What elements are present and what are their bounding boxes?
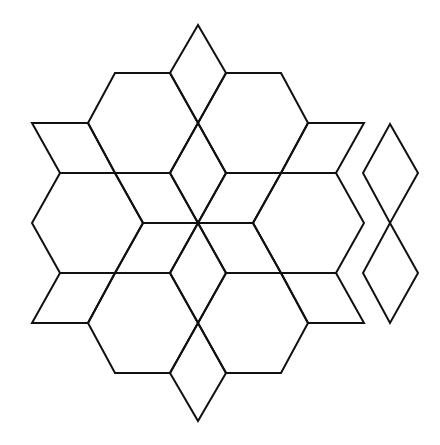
hexagon-top-left [88, 73, 198, 173]
rhombus-left-top [32, 123, 115, 173]
hexagon-right [253, 173, 364, 273]
hexagon-top-right [198, 73, 308, 173]
tessellation-diagram [0, 0, 440, 445]
detached-rhombus-lower [363, 223, 418, 323]
star-rhombus-nw [115, 173, 198, 223]
hexagon-bottom-left [88, 273, 198, 373]
hexagon-left [32, 173, 143, 273]
star-rhombus-ne [198, 173, 281, 223]
shape-group [32, 25, 418, 421]
hexagon-bottom-right [198, 273, 308, 373]
star-rhombus-se [198, 223, 281, 273]
rhombus-top [170, 25, 226, 123]
rhombus-bottom [170, 323, 226, 421]
rhombus-right-top [281, 123, 364, 173]
star-rhombus-sw [115, 223, 198, 273]
star-rhombus-n [170, 123, 226, 223]
detached-rhombus-upper [363, 124, 418, 223]
star-rhombus-s [170, 223, 226, 323]
